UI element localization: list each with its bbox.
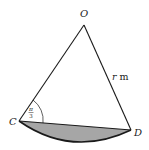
angle-numerator: π [28,105,34,112]
angle-denominator: 3 [29,113,33,119]
label-c: C [9,116,17,127]
label-o: O [80,8,88,19]
side-label: r m [112,71,129,82]
angle-arc-c [33,100,43,123]
side-label-unit: m [117,71,129,82]
angle-label: π 3 [28,105,34,119]
label-d: D [133,127,142,138]
sector-diagram: π 3 O C D r m [0,0,149,150]
